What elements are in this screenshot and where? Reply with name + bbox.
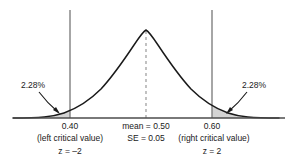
- distribution-plot: [0, 0, 290, 167]
- normal-distribution-figure: 2.28% 2.28% 0.40 (left critical value) z…: [0, 0, 290, 167]
